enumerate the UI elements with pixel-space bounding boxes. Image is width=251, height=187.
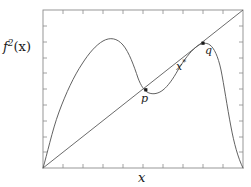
- marker-point-p: [144, 88, 147, 91]
- x-axis-label: x: [138, 171, 145, 184]
- point-label-x-star-asterisk: *: [182, 58, 186, 67]
- diagonal-identity-line: [43, 10, 243, 168]
- point-label-q: q: [205, 45, 212, 56]
- plot-canvas: [0, 0, 251, 187]
- point-label-x-star: x*: [176, 61, 186, 72]
- y-axis-label-arg: (x): [14, 39, 31, 54]
- figure-container: f2(x) x p q x*: [0, 0, 251, 187]
- point-label-p: p: [141, 93, 148, 104]
- y-axis-label: f2(x): [3, 40, 31, 53]
